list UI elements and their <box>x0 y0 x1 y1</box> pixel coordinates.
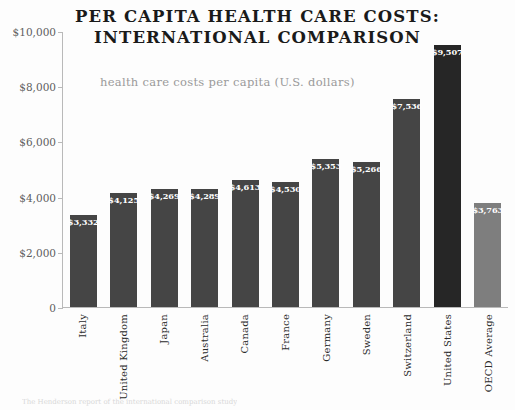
bar[interactable]: $4,269 <box>151 189 178 307</box>
bar[interactable]: $4,613 <box>232 180 259 307</box>
bar-value-label: $5,353 <box>311 161 342 171</box>
x-axis-label-slot: OECD Average <box>467 310 508 402</box>
x-axis-tick-label: Japan <box>158 314 169 344</box>
bar-value-label: $3,763 <box>472 205 503 215</box>
bar[interactable]: $5,266 <box>353 162 380 307</box>
x-axis-label-slot: Switzerland <box>386 310 427 402</box>
y-axis-tick-label: $8,000 <box>19 81 63 93</box>
chart-title-line-1: PER CAPITA HEALTH CARE COSTS: <box>0 6 515 27</box>
x-axis-label-slot: Canada <box>224 310 265 402</box>
chart-footnote: The Henderson report of the internationa… <box>22 398 237 409</box>
bar-value-label: $4,125 <box>108 195 139 205</box>
y-axis-tick-label: $10,000 <box>13 26 63 38</box>
x-axis-tick-label: Switzerland <box>401 314 412 377</box>
x-axis-label-slot: France <box>265 310 306 402</box>
bar-slot: $4,269 <box>144 32 184 307</box>
plot-area: 0$2,000$4,000$6,000$8,000$10,000 $3,332$… <box>62 32 508 308</box>
x-axis-label-slot: Italy <box>62 310 103 402</box>
bar-slot: $4,530 <box>265 32 305 307</box>
bar-series: $3,332$4,125$4,269$4,289$4,613$4,530$5,3… <box>63 32 508 307</box>
bar-value-label: $5,266 <box>351 164 382 174</box>
bar[interactable]: $4,125 <box>110 193 137 307</box>
x-axis-labels: ItalyUnited KingdomJapanAustraliaCanadaF… <box>62 310 508 402</box>
bar-slot: $3,763 <box>468 32 508 307</box>
bar-value-label: $4,289 <box>189 191 220 201</box>
bar-slot: $5,353 <box>306 32 346 307</box>
x-axis-label-slot: Sweden <box>346 310 387 402</box>
bar-value-label: $4,530 <box>270 184 301 194</box>
bar[interactable]: $9,507 <box>434 45 461 307</box>
chart-figure: PER CAPITA HEALTH CARE COSTS: INTERNATIO… <box>0 0 515 410</box>
bar-slot: $4,613 <box>225 32 265 307</box>
x-axis-tick-label: Italy <box>77 314 88 338</box>
bar-value-label: $9,507 <box>432 47 463 57</box>
bar[interactable]: $7,536 <box>393 99 420 307</box>
x-axis-tick-label: Canada <box>239 314 250 354</box>
y-axis-tick-label: $4,000 <box>19 192 63 204</box>
x-axis-tick-label: Australia <box>198 314 209 362</box>
y-axis-tick-mark <box>58 308 63 309</box>
x-axis-label-slot: Japan <box>143 310 184 402</box>
bar-value-label: $4,613 <box>230 182 261 192</box>
bar-slot: $5,266 <box>346 32 386 307</box>
y-axis-tick-label: $6,000 <box>19 136 63 148</box>
x-axis-label-slot: Germany <box>305 310 346 402</box>
bar[interactable]: $5,353 <box>312 159 339 307</box>
bar[interactable]: $3,332 <box>70 215 97 307</box>
x-axis-tick-label: France <box>280 314 291 351</box>
bar-value-label: $4,269 <box>149 191 180 201</box>
y-axis-tick-label: $2,000 <box>19 247 63 259</box>
x-axis-tick-label: OECD Average <box>482 314 493 392</box>
bar-value-label: $3,332 <box>68 217 99 227</box>
x-axis-tick-label: Sweden <box>361 314 372 355</box>
bar-slot: $9,507 <box>427 32 467 307</box>
bar-value-label: $7,536 <box>391 101 422 111</box>
x-axis-tick-label: Germany <box>320 314 331 362</box>
bar[interactable]: $4,530 <box>272 182 299 307</box>
bar-slot: $4,125 <box>103 32 143 307</box>
bar-slot: $7,536 <box>387 32 427 307</box>
bar-slot: $4,289 <box>184 32 224 307</box>
bar[interactable]: $3,763 <box>474 203 501 307</box>
x-axis-label-slot: United States <box>427 310 468 402</box>
bar-slot: $3,332 <box>63 32 103 307</box>
x-axis-label-slot: Australia <box>184 310 225 402</box>
bar[interactable]: $4,289 <box>191 189 218 307</box>
x-axis-label-slot: United Kingdom <box>103 310 144 402</box>
x-axis-tick-label: United States <box>442 314 453 386</box>
x-axis-tick-label: United Kingdom <box>117 314 128 400</box>
